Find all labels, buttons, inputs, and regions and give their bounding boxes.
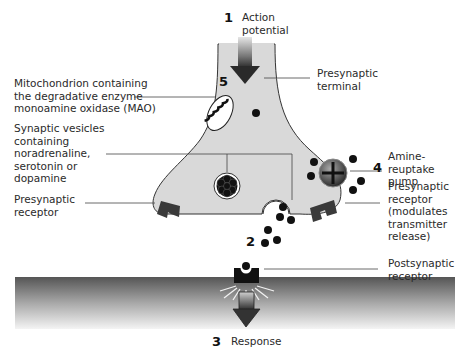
- label-action-potential: Action potential: [242, 11, 289, 36]
- label-presynaptic-receptor-left: Presynaptic receptor: [14, 193, 75, 218]
- label-presynaptic-receptor-right: Presynaptic receptor (modulates transmit…: [388, 180, 449, 243]
- label-response: Response: [231, 335, 281, 348]
- reuptake-pump-icon: [319, 159, 347, 187]
- step-number-1: 1: [224, 10, 233, 25]
- step-number-5: 5: [219, 74, 228, 89]
- synaptic-vesicle: [214, 173, 240, 199]
- label-postsynaptic-receptor: Postsynaptic receptor: [388, 257, 454, 282]
- label-synaptic-vesicles: Synaptic vesicles containing noradrenali…: [14, 122, 104, 185]
- transmitter-molecule: [252, 109, 260, 117]
- released-transmitter: [261, 226, 281, 247]
- synapse-diagram: 1 2 3 4 5 Action potential Response Amin…: [0, 0, 470, 362]
- step-number-3: 3: [212, 334, 221, 349]
- postsynaptic-membrane: [15, 277, 455, 329]
- step-number-4: 4: [373, 160, 382, 175]
- step-number-2: 2: [246, 234, 255, 249]
- label-mitochondrion: Mitochondrion containing the degradative…: [14, 77, 156, 115]
- label-presynaptic-terminal: Presynaptic terminal: [317, 67, 378, 92]
